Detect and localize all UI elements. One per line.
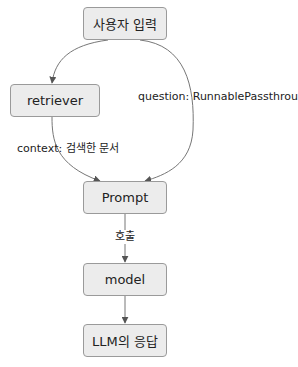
node-user-input: 사용자 입력 [83,7,167,40]
node-prompt: Prompt [83,181,167,214]
edge-label-invoke: 호출 [115,230,135,244]
edge-label-context: context: 검색한 문서 [17,142,119,156]
node-model: model [83,263,167,296]
node-llm-response: LLM의 응답 [83,324,167,357]
edge-user-to-prompt [140,40,193,181]
node-retriever: retriever [10,84,100,117]
edge-user-to-retriever [52,40,108,83]
edge-label-question: question: RunnablePassthrough [138,90,298,104]
